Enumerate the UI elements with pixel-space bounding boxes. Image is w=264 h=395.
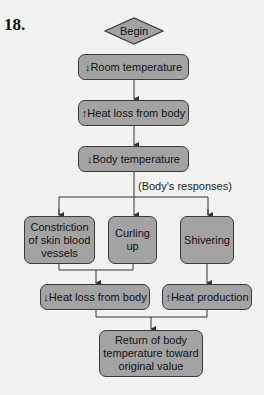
effect-heat-loss-decrease: ↓Heat loss from body [40, 284, 150, 310]
branch-label: (Body's responses) [138, 180, 232, 192]
response-constriction: Constriction of skin blood vessels [24, 216, 95, 264]
effect-heat-production: ↑Heat production [162, 284, 252, 310]
step-heat-loss-increase: ↑Heat loss from body [78, 100, 189, 126]
response-shivering: Shivering [180, 216, 234, 264]
step-room-temperature: ↓Room temperature [78, 54, 189, 80]
begin-label: Begin [105, 18, 163, 44]
response-curling-up: Curling up [108, 216, 157, 264]
outcome-box: Return of body temperature toward origin… [99, 330, 203, 377]
step-body-temperature: ↓Body temperature [78, 146, 189, 172]
